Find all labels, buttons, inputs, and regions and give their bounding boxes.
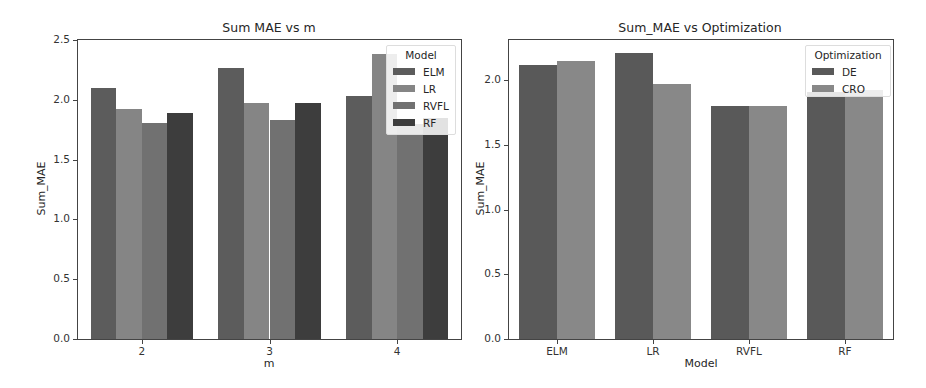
bar-elm-4 xyxy=(346,96,372,339)
bar-rf-3 xyxy=(295,103,321,339)
bar-rvfl-4 xyxy=(397,124,423,339)
y-tick-label: 1.0 xyxy=(471,203,501,215)
y-tick-label: 1.0 xyxy=(40,212,70,224)
y-tick-label: 1.5 xyxy=(471,138,501,150)
legend-entry-cro: CRO xyxy=(812,80,884,97)
y-tick-label: 0.5 xyxy=(471,267,501,279)
legend: Model ELMLRRVFLRF xyxy=(386,45,456,135)
legend-entry-elm: ELM xyxy=(393,63,449,80)
legend-swatch xyxy=(812,68,834,75)
legend-title: Optimization xyxy=(812,49,884,61)
legend-entry-lr: LR xyxy=(393,80,449,97)
legend-swatch xyxy=(812,85,834,92)
legend-label: LR xyxy=(423,83,436,95)
x-tick-mark xyxy=(397,340,398,344)
x-tick-mark xyxy=(142,340,143,344)
legend-label: ELM xyxy=(423,66,445,78)
y-tick-label: 2.0 xyxy=(40,93,70,105)
legend-entry-rf: RF xyxy=(393,114,449,131)
bar-elm-2 xyxy=(91,88,117,339)
legend-label: RVFL xyxy=(423,100,449,112)
x-tick-mark xyxy=(653,340,654,344)
bar-rvfl-3 xyxy=(270,120,296,339)
x-tick-mark xyxy=(270,340,271,344)
bar-rf-4 xyxy=(423,118,449,339)
bar-cro-lr xyxy=(653,84,691,339)
chart-title: Sum MAE vs m xyxy=(222,20,315,35)
y-tick-label: 0.5 xyxy=(40,272,70,284)
x-tick-mark xyxy=(557,340,558,344)
x-tick-label: RF xyxy=(838,345,851,357)
x-tick-mark xyxy=(845,340,846,344)
legend-entry-rvfl: RVFL xyxy=(393,97,449,114)
x-tick-label: ELM xyxy=(546,345,568,357)
bar-de-rf xyxy=(807,92,845,339)
y-tick-label: 2.0 xyxy=(471,73,501,85)
chart-left: Sum MAE vs m Sum_MAE 0.00.51.01.52.02.5 … xyxy=(0,0,463,388)
x-tick-label: RVFL xyxy=(736,345,762,357)
x-axis-label: m xyxy=(264,357,275,370)
legend-label: CRO xyxy=(842,83,865,95)
bar-cro-rf xyxy=(845,90,883,339)
legend-swatch xyxy=(393,68,415,75)
y-tick-label: 2.5 xyxy=(40,33,70,45)
bar-de-lr xyxy=(615,53,653,339)
x-tick-label: LR xyxy=(646,345,659,357)
y-tick-label: 0.0 xyxy=(40,332,70,344)
chart-title: Sum_MAE vs Optimization xyxy=(618,20,781,35)
legend-label: DE xyxy=(842,66,857,78)
x-tick-label: 2 xyxy=(138,345,145,357)
x-tick-mark xyxy=(749,340,750,344)
bar-rf-2 xyxy=(167,113,193,339)
bar-cro-rvfl xyxy=(749,106,787,339)
bar-de-rvfl xyxy=(711,106,749,339)
bar-rvfl-2 xyxy=(142,123,168,339)
bar-lr-2 xyxy=(116,109,142,339)
chart-right: Sum_MAE vs Optimization Sum_MAE 0.00.51.… xyxy=(463,0,926,388)
bar-cro-elm xyxy=(557,61,595,339)
y-tick-label: 0.0 xyxy=(471,332,501,344)
legend-swatch xyxy=(393,85,415,92)
x-tick-label: 4 xyxy=(394,345,401,357)
legend-swatch xyxy=(393,102,415,109)
legend: Optimization DECRO xyxy=(805,45,891,97)
x-tick-label: 3 xyxy=(266,345,273,357)
x-axis-label: Model xyxy=(684,357,717,370)
legend-swatch xyxy=(393,119,415,126)
legend-entry-de: DE xyxy=(812,63,884,80)
y-tick-label: 1.5 xyxy=(40,153,70,165)
bar-lr-3 xyxy=(244,103,270,339)
bar-de-elm xyxy=(519,65,557,339)
bar-elm-3 xyxy=(218,68,244,339)
legend-label: RF xyxy=(423,117,436,129)
legend-title: Model xyxy=(393,49,449,61)
y-axis-label: Sum_MAE xyxy=(35,161,48,215)
